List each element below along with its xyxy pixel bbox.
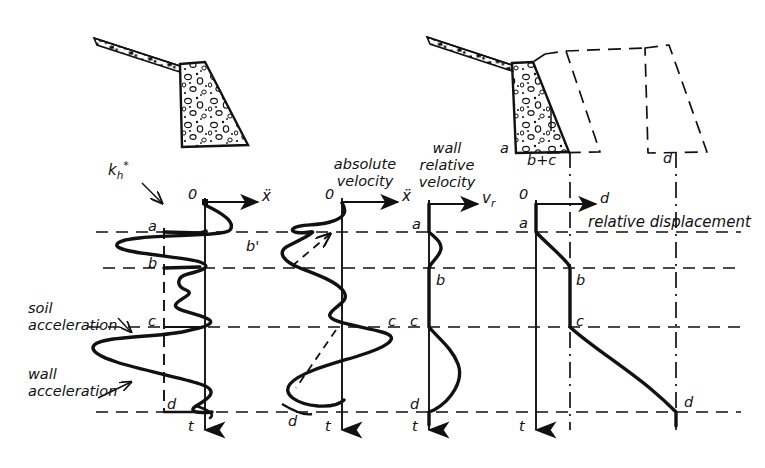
ground-surface-right — [427, 37, 518, 73]
event-label-c-2: c — [388, 313, 396, 330]
heading-relative-displacement: relative displacement — [588, 214, 751, 232]
event-label-b-4: b — [576, 272, 585, 289]
event-label-a-3: a — [412, 216, 421, 233]
event-label-bprime: b' — [246, 238, 259, 255]
panel-wall-relative-velocity — [429, 200, 478, 430]
leader-soil-acceleration — [118, 318, 131, 332]
event-label-d-1: d — [167, 396, 176, 413]
threshold-label-kh: kh* — [108, 160, 129, 181]
wall-diagram-right — [427, 37, 707, 153]
event-label-d-4: d — [684, 394, 693, 411]
event-label-c-4: c — [576, 313, 584, 330]
heading-absolute-velocity: absolutevelocity — [322, 156, 408, 190]
time-label-1: t — [188, 418, 194, 435]
event-label-d-3: d — [410, 396, 419, 413]
axis-label-displacement: d — [600, 190, 609, 207]
event-label-b-1: b — [148, 255, 157, 272]
wall-label-d: d — [663, 150, 672, 167]
panel-acceleration — [93, 183, 258, 430]
axis-label-acceleration: ẍ — [262, 188, 271, 206]
curve-wall-absolute-velocity-ab — [292, 234, 330, 266]
origin-label-2: 0 — [325, 186, 334, 203]
wall-diagram-left — [94, 38, 248, 147]
threshold-leader — [142, 183, 162, 203]
curve-relative-displacement — [536, 204, 676, 426]
event-label-b-3: b — [436, 272, 445, 289]
wall-ghost-outline-2 — [645, 45, 707, 153]
curve-wall-acceleration — [164, 231, 206, 233]
wall-body-right — [512, 62, 569, 153]
curve-absolute-velocity-soil — [282, 203, 391, 406]
origin-label-1: 0 — [188, 186, 197, 203]
origin-label-4: 0 — [519, 186, 528, 203]
heading-wall-relative-velocity: wallrelativevelocity — [408, 140, 486, 191]
event-label-c-3: c — [410, 313, 418, 330]
axis-label-relative-velocity: vr — [482, 190, 495, 209]
curve-relative-velocity — [429, 204, 460, 425]
wall-label-bc: b+c — [527, 152, 556, 169]
event-label-a-4: a — [519, 215, 528, 232]
annotation-wall-acceleration: wallacceleration — [28, 366, 117, 400]
wall-body-left — [180, 62, 248, 147]
curve-wall-absolute-velocity-cd — [296, 330, 336, 388]
event-label-a-1: a — [148, 218, 157, 235]
time-label-2: t — [325, 418, 331, 435]
wall-label-a: a — [500, 140, 509, 157]
event-label-c-1: c — [148, 313, 156, 330]
annotation-soil-acceleration: soilacceleration — [28, 300, 117, 334]
event-label-d-2: d — [288, 413, 297, 430]
figure-canvas: a b+c d kh* 0 ẍ a b c d t soilaccelerat… — [0, 0, 765, 468]
time-label-3: t — [412, 418, 418, 435]
ground-surface-left — [94, 38, 186, 74]
time-label-4: t — [519, 418, 525, 435]
